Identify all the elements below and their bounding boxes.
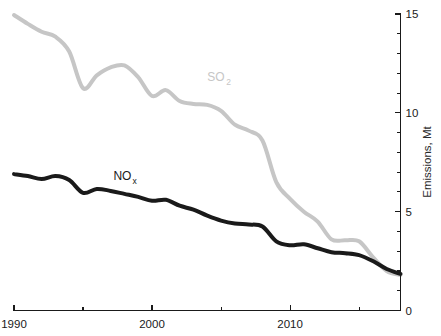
series-line-nox — [14, 174, 401, 274]
y-tick-label-0: 0 — [406, 305, 412, 317]
x-tick-label-2010: 2010 — [277, 318, 303, 330]
series-label-so2-subscript: 2 — [226, 77, 231, 87]
series-group — [14, 15, 401, 275]
x-tick-label-2000: 2000 — [139, 318, 165, 330]
x-tick-label-1990: 1990 — [1, 318, 27, 330]
series-label-nox-subscript: x — [132, 176, 137, 186]
series-label-nox-text: NO — [113, 169, 131, 183]
axis-tick-labels: 051015199020002010 — [1, 8, 418, 329]
y-tick-label-5: 5 — [406, 206, 412, 218]
series-label-so2-text: SO — [207, 70, 224, 84]
y-axis-title: Emissions, Mt — [421, 125, 433, 197]
series-label-so2: SO 2 — [207, 70, 231, 87]
y-tick-label-15: 15 — [406, 8, 419, 20]
chart-canvas: 051015199020002010 Emissions, Mt SO 2 NO… — [0, 0, 441, 336]
y-tick-label-10: 10 — [406, 107, 419, 119]
emissions-line-chart: 051015199020002010 Emissions, Mt SO 2 NO… — [0, 0, 441, 336]
series-label-nox: NO x — [113, 169, 137, 186]
series-line-so2 — [14, 15, 401, 275]
